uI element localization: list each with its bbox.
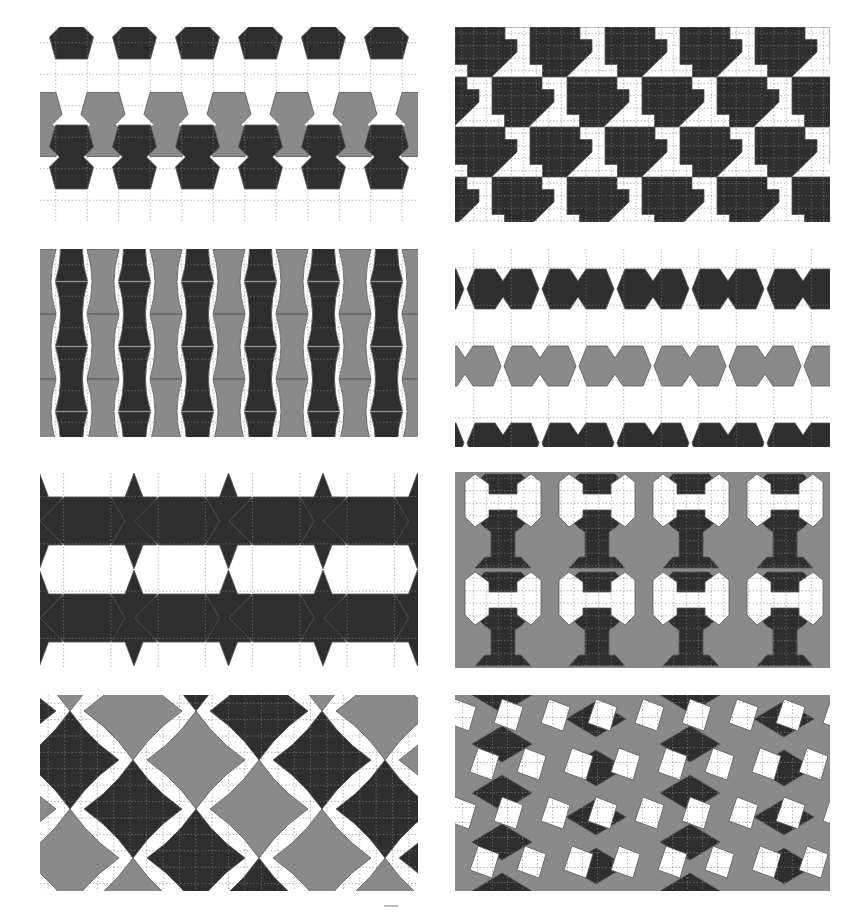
page-mark	[384, 905, 398, 907]
tessellation-panel-square-rhombus	[455, 695, 830, 891]
tessellation-panel-bowtie	[40, 27, 418, 222]
tessellation-panel-star-hexagon	[40, 473, 418, 667]
tessellation-panel-octagon-star	[40, 695, 418, 891]
tessellation-panel-arrow	[455, 27, 830, 222]
tessellation-panel-bone	[455, 472, 830, 668]
tessellation-panel-cross-star	[455, 249, 830, 447]
tessellation-panel-curved-bowtie	[40, 249, 418, 437]
